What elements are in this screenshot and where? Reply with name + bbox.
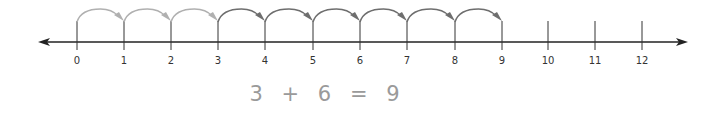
tick-label: 2 [168, 55, 174, 66]
equation: 3 + 6 = 9 [0, 82, 650, 106]
tick-label: 5 [310, 55, 316, 66]
jump-arc [407, 9, 449, 22]
tick-label: 1 [121, 55, 127, 66]
tick-label: 8 [452, 55, 458, 66]
jump-arc [455, 9, 496, 22]
jump-arc [218, 9, 259, 22]
equation-sum: 9 [386, 82, 400, 106]
tick-label: 0 [74, 55, 80, 66]
tick-label: 10 [542, 55, 555, 66]
jump-arc [265, 9, 307, 22]
equation-addend-1: 3 [249, 82, 263, 106]
tick-label: 4 [262, 55, 268, 66]
jump-arc [360, 9, 401, 22]
jump-arc [313, 9, 354, 22]
tick-label: 6 [357, 55, 363, 66]
tick-label: 9 [499, 55, 505, 66]
jump-arc [124, 9, 165, 22]
tick-label: 12 [636, 55, 649, 66]
tick-label: 7 [404, 55, 410, 66]
jump-arc [77, 9, 118, 22]
tick-label: 11 [589, 55, 602, 66]
equation-plus-sign: + [282, 82, 301, 106]
equation-equals-sign: = [350, 82, 369, 106]
equation-addend-2: 6 [318, 82, 332, 106]
jump-arc [171, 9, 212, 22]
tick-label: 3 [215, 55, 221, 66]
